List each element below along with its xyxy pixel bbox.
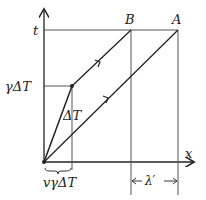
emission-event-dot xyxy=(70,84,74,88)
spacetime-diagram: t x B A γΔT ΔT vγΔT λ′ xyxy=(0,0,206,200)
point-b-label: B xyxy=(124,12,135,27)
point-a-label: A xyxy=(171,12,181,27)
source-worldline xyxy=(44,86,72,162)
lambda-prime-label: λ′ xyxy=(144,174,156,188)
dt-label: ΔT xyxy=(62,108,82,123)
t-axis-label: t xyxy=(33,23,39,38)
v-gamma-dt-label: vγΔT xyxy=(43,175,78,190)
v-gamma-dt-brace xyxy=(45,168,71,174)
x-axis-label: x xyxy=(185,146,193,161)
light-ray-to-b xyxy=(72,30,131,86)
origin-dot xyxy=(42,160,46,164)
gamma-dt-label: γΔT xyxy=(5,79,32,94)
